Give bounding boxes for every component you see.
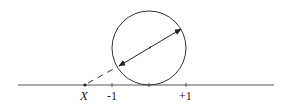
label-minus-one: -1 bbox=[107, 89, 117, 103]
label-x: X bbox=[79, 88, 89, 103]
center-dot bbox=[149, 47, 151, 49]
dashed-projection-line bbox=[88, 67, 117, 83]
diagram-canvas: X -1 +1 bbox=[0, 0, 288, 105]
label-plus-one: +1 bbox=[179, 89, 192, 103]
point-x-marker bbox=[83, 83, 86, 86]
